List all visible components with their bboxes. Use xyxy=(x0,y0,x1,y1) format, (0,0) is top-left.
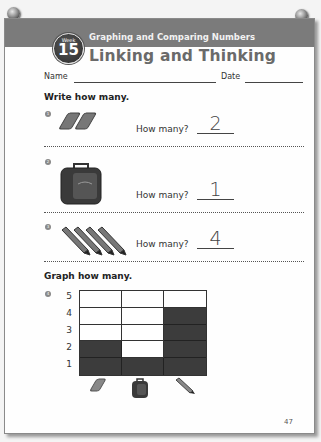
graph-cell-lunchbox-2[interactable] xyxy=(122,341,164,358)
answer-2[interactable]: 1 xyxy=(197,178,234,200)
question-number-4: 4 xyxy=(45,291,51,297)
answer-line-2 xyxy=(197,199,234,200)
divider-3 xyxy=(44,261,304,262)
question-number-3: 3 xyxy=(45,224,51,230)
graph-cell-eraser-2[interactable] xyxy=(80,341,122,358)
answer-line-1 xyxy=(197,133,234,134)
how-many-label-2: How many? xyxy=(136,190,189,200)
date-field[interactable] xyxy=(245,82,303,83)
graph-cell-eraser-4[interactable] xyxy=(80,308,122,325)
worksheet-title: Linking and Thinking xyxy=(89,47,276,65)
graph-cell-lunchbox-1[interactable] xyxy=(122,358,164,375)
worksheet-subtitle: Graphing and Comparing Numbers xyxy=(89,32,255,42)
graph-cell-pencil-3[interactable] xyxy=(164,325,206,342)
section-write-heading: Write how many. xyxy=(44,92,129,102)
y-label-5: 5 xyxy=(64,291,74,301)
week-badge: Week 15 xyxy=(53,33,84,64)
graph-cell-lunchbox-5[interactable] xyxy=(122,291,164,308)
graph-cell-pencil-1[interactable] xyxy=(164,358,206,375)
name-label: Name xyxy=(44,72,68,81)
graph-cell-pencil-4[interactable] xyxy=(164,308,206,325)
graph-cell-eraser-5[interactable] xyxy=(80,291,122,308)
graph-cell-eraser-3[interactable] xyxy=(80,325,122,342)
how-many-label-1: How many? xyxy=(136,124,189,134)
how-many-label-3: How many? xyxy=(136,239,189,249)
y-label-2: 2 xyxy=(64,342,74,352)
y-label-3: 3 xyxy=(64,325,74,335)
lunchbox-icon xyxy=(58,160,104,206)
graph-cell-lunchbox-3[interactable] xyxy=(122,325,164,342)
graph-eraser-icon xyxy=(88,377,110,393)
answer-3[interactable]: 4 xyxy=(197,227,234,249)
week-number: 15 xyxy=(54,43,83,58)
question-number-2: 2 xyxy=(45,159,51,165)
pencil-icon xyxy=(60,226,128,256)
answer-line-3 xyxy=(197,248,234,249)
eraser-icon xyxy=(58,110,100,132)
answer-1[interactable]: 2 xyxy=(197,112,234,134)
y-label-4: 4 xyxy=(64,308,74,318)
divider-1 xyxy=(44,146,304,147)
graph-pencil-icon xyxy=(174,377,196,395)
name-field[interactable] xyxy=(74,82,216,83)
graph-lunchbox-icon xyxy=(130,377,150,399)
date-label: Date xyxy=(221,72,240,81)
y-label-1: 1 xyxy=(64,359,74,369)
graph-cell-pencil-5[interactable] xyxy=(164,291,206,308)
page-number: 47 xyxy=(284,418,293,426)
divider-2 xyxy=(44,212,304,213)
bar-graph-grid xyxy=(79,290,207,376)
section-graph-heading: Graph how many. xyxy=(44,271,132,281)
graph-cell-eraser-1[interactable] xyxy=(80,358,122,375)
graph-cell-lunchbox-4[interactable] xyxy=(122,308,164,325)
graph-cell-pencil-2[interactable] xyxy=(164,341,206,358)
question-number-1: 1 xyxy=(45,111,51,117)
